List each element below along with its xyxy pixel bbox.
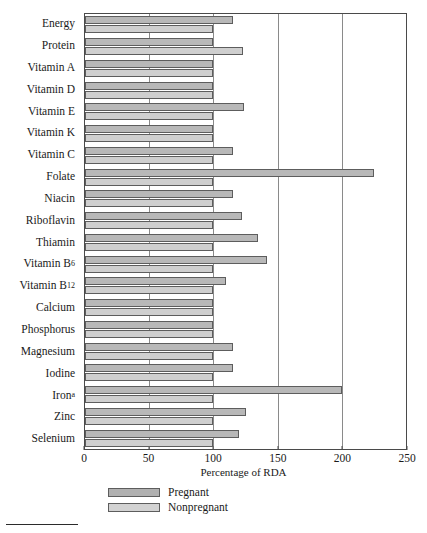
bar-rows	[85, 14, 406, 449]
bar-pregnant	[85, 38, 213, 46]
bar-pregnant	[85, 103, 244, 111]
bar-pregnant	[85, 343, 233, 351]
legend-item-nonpregnant: Nonpregnant	[108, 502, 228, 514]
x-tick-mark	[342, 446, 343, 450]
y-axis-label: Vitamin E	[0, 100, 80, 122]
bar-row	[85, 123, 406, 145]
bar-row	[85, 297, 406, 319]
y-axis-label: Calcium	[0, 297, 80, 319]
y-axis-label: Niacin	[0, 188, 80, 210]
y-axis-label: Iodine	[0, 363, 80, 385]
y-axis-label: Protein	[0, 35, 80, 57]
bar-row	[85, 210, 406, 232]
y-axis-category-labels: EnergyProteinVitamin AVitamin DVitamin E…	[0, 13, 80, 450]
x-axis-ticks: 050100150200250	[84, 450, 407, 466]
bar-row	[85, 36, 406, 58]
y-axis-label: Vitamin B12	[0, 275, 80, 297]
bar-nonpregnant	[85, 156, 213, 164]
bar-nonpregnant	[85, 199, 213, 207]
plot-area	[84, 13, 407, 450]
x-tick-mark	[407, 446, 408, 450]
bar-nonpregnant	[85, 25, 213, 33]
bar-nonpregnant	[85, 373, 213, 381]
x-tick-label: 200	[334, 452, 351, 464]
x-tick-label: 50	[143, 452, 155, 464]
y-axis-label: Magnesium	[0, 341, 80, 363]
x-tick-mark	[277, 446, 278, 450]
y-axis-label: Energy	[0, 13, 80, 35]
bar-nonpregnant	[85, 265, 213, 273]
bar-nonpregnant	[85, 178, 213, 186]
bar-pregnant	[85, 321, 213, 329]
y-axis-label: Folate	[0, 166, 80, 188]
legend-swatch-nonpregnant	[108, 503, 160, 512]
bar-row	[85, 275, 406, 297]
bar-row	[85, 232, 406, 254]
x-axis-title: Percentage of RDA	[0, 466, 427, 478]
bar-pregnant	[85, 234, 258, 242]
legend-label: Nonpregnant	[168, 502, 228, 514]
bar-nonpregnant	[85, 221, 213, 229]
y-axis-label: Phosphorus	[0, 319, 80, 341]
bar-row	[85, 188, 406, 210]
bar-row	[85, 384, 406, 406]
bar-nonpregnant	[85, 330, 213, 338]
y-axis-label: Riboflavin	[0, 210, 80, 232]
y-axis-label: Vitamin K	[0, 122, 80, 144]
legend-swatch-pregnant	[108, 488, 160, 497]
bar-pregnant	[85, 169, 374, 177]
bar-nonpregnant	[85, 395, 213, 403]
y-axis-label: Vitamin A	[0, 57, 80, 79]
bar-pregnant	[85, 82, 213, 90]
legend-label: Pregnant	[168, 487, 209, 499]
footnote-divider	[6, 524, 78, 525]
y-axis-label: Vitamin B6	[0, 253, 80, 275]
bar-row	[85, 340, 406, 362]
x-tick-label: 100	[205, 452, 222, 464]
chart-legend: PregnantNonpregnant	[108, 487, 228, 513]
y-axis-label: Zinc	[0, 406, 80, 428]
bar-nonpregnant	[85, 91, 213, 99]
bar-row	[85, 79, 406, 101]
bar-row	[85, 101, 406, 123]
y-axis-label: Thiamin	[0, 231, 80, 253]
bar-nonpregnant	[85, 134, 213, 142]
bar-row	[85, 427, 406, 449]
bar-nonpregnant	[85, 308, 213, 316]
bar-pregnant	[85, 190, 233, 198]
y-axis-label: Vitamin C	[0, 144, 80, 166]
y-axis-label: Selenium	[0, 428, 80, 450]
x-tick-label: 250	[398, 452, 415, 464]
bar-pregnant	[85, 430, 239, 438]
bar-pregnant	[85, 16, 233, 24]
bar-pregnant	[85, 256, 267, 264]
bar-nonpregnant	[85, 352, 213, 360]
bar-pregnant	[85, 212, 242, 220]
chart-root: EnergyProteinVitamin AVitamin DVitamin E…	[0, 0, 427, 533]
bar-pregnant	[85, 147, 233, 155]
bar-nonpregnant	[85, 47, 243, 55]
bar-row	[85, 166, 406, 188]
bar-row	[85, 319, 406, 341]
bar-pregnant	[85, 299, 213, 307]
bar-row	[85, 14, 406, 36]
bar-nonpregnant	[85, 417, 213, 425]
bar-nonpregnant	[85, 243, 213, 251]
bar-pregnant	[85, 277, 226, 285]
bar-row	[85, 58, 406, 80]
y-axis-label: Vitamin D	[0, 79, 80, 101]
bar-row	[85, 362, 406, 384]
x-tick-label: 0	[81, 452, 87, 464]
bar-row	[85, 253, 406, 275]
bar-nonpregnant	[85, 439, 213, 447]
bar-row	[85, 145, 406, 167]
legend-item-pregnant: Pregnant	[108, 487, 228, 499]
bar-nonpregnant	[85, 69, 213, 77]
bar-pregnant	[85, 386, 342, 394]
bar-pregnant	[85, 408, 246, 416]
bar-pregnant	[85, 125, 213, 133]
bar-nonpregnant	[85, 286, 213, 294]
x-tick-label: 150	[269, 452, 286, 464]
bar-pregnant	[85, 60, 213, 68]
y-axis-label: Irona	[0, 384, 80, 406]
